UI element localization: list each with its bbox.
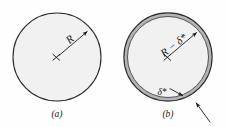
annulus-pointer-arrow xyxy=(196,103,210,122)
figure-container: R (a) R − δ* δ* (b) xyxy=(0,0,226,127)
caption-b: (b) xyxy=(162,109,173,120)
panel-a: R (a) xyxy=(13,13,101,120)
caption-a: (a) xyxy=(51,109,62,120)
displacement-thickness-label: δ* xyxy=(157,87,166,97)
panel-b: R − δ* δ* (b) xyxy=(124,13,212,122)
figure-svg: R (a) R − δ* δ* (b) xyxy=(0,0,226,127)
